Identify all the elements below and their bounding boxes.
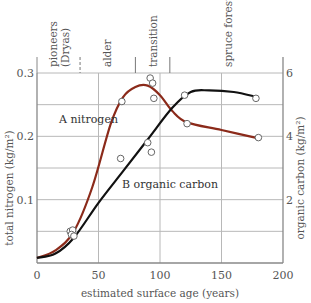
y-tick-label-right: 2 [286, 194, 293, 207]
data-point-marker [117, 155, 124, 162]
x-tick-label: 200 [273, 269, 294, 282]
y-tick-label-right: 6 [286, 67, 293, 80]
x-axis-label: estimated surface age (years) [81, 287, 239, 299]
data-point-marker [184, 120, 191, 127]
y-tick-label-left: 0.2 [17, 130, 35, 143]
chart: pioneers(Dryas)aldertransitionspruce for… [0, 0, 311, 303]
data-point-marker [71, 233, 78, 240]
series-label-nitrogen: A nitrogen [58, 113, 118, 126]
data-point-marker [151, 95, 158, 102]
x-tick-label: 100 [150, 269, 171, 282]
data-point-marker [148, 149, 155, 156]
data-point-marker [144, 139, 151, 146]
data-point-marker [181, 92, 188, 99]
series-label-organic-carbon: B organic carbon [122, 178, 218, 191]
y-tick-label-left: 0.1 [17, 194, 35, 207]
x-tick-label: 50 [92, 269, 106, 282]
y-tick-label-left: 0.3 [17, 67, 35, 80]
series-nitrogen [37, 75, 262, 258]
y-tick-label-right: 4 [286, 130, 293, 143]
y-axis-label-left: total nitrogen (kg/m²) [3, 130, 15, 245]
stage-label-alder: alder [101, 38, 113, 67]
stage-label-pioneers: pioneers [47, 21, 59, 67]
stage-label-spruce: spruce forest [222, 0, 234, 67]
data-point-marker [253, 95, 260, 102]
data-point-marker [149, 80, 156, 87]
x-tick-label: 0 [34, 269, 41, 282]
data-point-marker [255, 134, 262, 141]
stage-label-dryas: (Dryas) [59, 28, 71, 67]
stage-label-transition: transition [147, 15, 159, 67]
data-point-marker [119, 98, 126, 105]
x-tick-label: 150 [211, 269, 232, 282]
y-axis-label-right: organic carbon (kg/m²) [294, 117, 306, 240]
